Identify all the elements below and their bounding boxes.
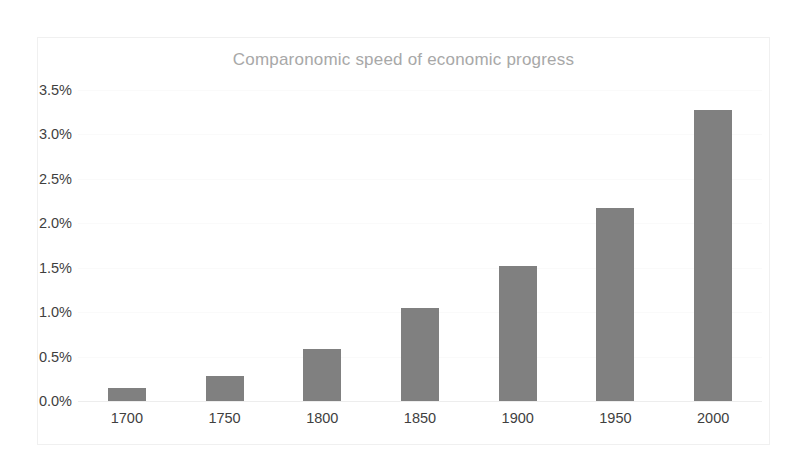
x-axis-tick-1950: 1950 bbox=[575, 410, 655, 426]
bar-1800 bbox=[303, 349, 341, 401]
x-axis-tick-labels: 1700175018001850190019502000 bbox=[78, 410, 762, 436]
y-axis-tick: 1.0% bbox=[30, 304, 72, 320]
y-axis-tick: 0.5% bbox=[30, 349, 72, 365]
x-axis-tick-1750: 1750 bbox=[185, 410, 265, 426]
y-axis-tick: 2.5% bbox=[30, 171, 72, 187]
x-axis-line bbox=[78, 401, 762, 402]
x-axis-tick-1850: 1850 bbox=[380, 410, 460, 426]
y-axis-tick: 2.0% bbox=[30, 215, 72, 231]
bar-1950 bbox=[596, 208, 634, 401]
chart-bars bbox=[78, 90, 762, 401]
x-axis-tick-1800: 1800 bbox=[282, 410, 362, 426]
y-axis-tick-labels: 0.0%0.5%1.0%1.5%2.0%2.5%3.0%3.5% bbox=[30, 90, 72, 401]
x-axis-tick-1700: 1700 bbox=[87, 410, 167, 426]
y-axis-tick: 3.5% bbox=[30, 82, 72, 98]
y-axis-tick: 1.5% bbox=[30, 260, 72, 276]
bar-1850 bbox=[401, 308, 439, 401]
bar-1700 bbox=[108, 388, 146, 401]
scan-bottom-edge bbox=[0, 457, 799, 469]
chart-title: Comparonomic speed of economic progress bbox=[37, 50, 770, 70]
y-axis-tick: 0.0% bbox=[30, 393, 72, 409]
bar-2000 bbox=[694, 110, 732, 401]
bar-1750 bbox=[206, 376, 244, 401]
chart-container: Comparonomic speed of economic progress … bbox=[0, 0, 799, 469]
x-axis-tick-2000: 2000 bbox=[673, 410, 753, 426]
bar-1900 bbox=[499, 266, 537, 401]
y-axis-tick: 3.0% bbox=[30, 126, 72, 142]
x-axis-tick-1900: 1900 bbox=[478, 410, 558, 426]
